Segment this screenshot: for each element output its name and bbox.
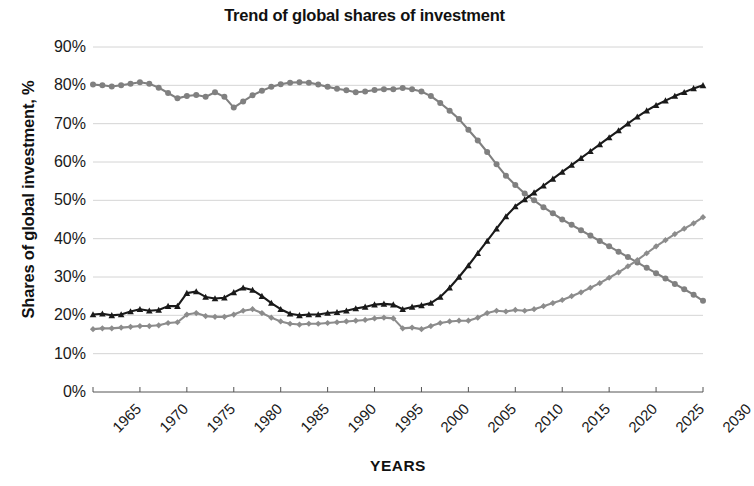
x-tick-label: 2030 bbox=[719, 400, 754, 436]
x-tick-label: 2005 bbox=[484, 400, 520, 436]
x-tick-label: 1995 bbox=[390, 400, 426, 436]
x-tick-label: 2015 bbox=[578, 400, 614, 436]
x-axis-label: YEARS bbox=[93, 457, 703, 475]
x-tick-label: 1965 bbox=[109, 400, 145, 436]
x-tick-label: 1975 bbox=[203, 400, 239, 436]
x-tick-label: 2000 bbox=[437, 400, 473, 436]
x-tick-label: 1990 bbox=[343, 400, 379, 436]
x-tick-label: 2020 bbox=[625, 400, 661, 436]
x-tick-label: 2025 bbox=[672, 400, 708, 436]
x-tick-label: 1980 bbox=[250, 400, 286, 436]
x-tick-label: 1985 bbox=[296, 400, 332, 436]
x-tick-label: 1970 bbox=[156, 400, 192, 436]
x-tick-label: 2010 bbox=[531, 400, 567, 436]
